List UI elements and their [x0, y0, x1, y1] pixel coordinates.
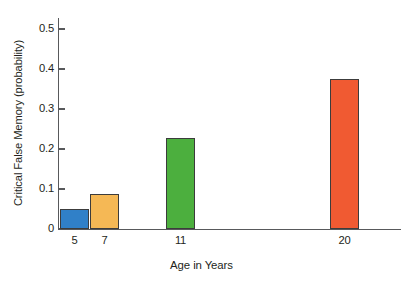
- bar: [90, 194, 119, 229]
- bar: [166, 138, 195, 229]
- y-axis-tick-label: 0.2: [0, 143, 54, 154]
- y-axis-title: Critical False Memory (probability): [9, 8, 27, 238]
- y-axis-tick-label: 0.3: [0, 103, 54, 114]
- bar: [60, 209, 89, 229]
- y-axis-tick-label: 0.1: [0, 183, 54, 194]
- x-axis-tick-label: 11: [161, 234, 201, 246]
- x-axis-tick-label: 20: [325, 234, 365, 246]
- y-axis-tick-label: 0.5: [0, 23, 54, 34]
- bars-layer: [59, 18, 401, 229]
- y-axis-tick-label: 0.4: [0, 63, 54, 74]
- bar: [330, 79, 359, 229]
- y-axis-tick-label: 0: [0, 223, 54, 234]
- bar-chart: Critical False Memory (probability) 00.1…: [0, 0, 403, 283]
- x-axis-tick-label: 7: [85, 234, 125, 246]
- x-axis-line: [58, 229, 401, 230]
- x-axis-title: Age in Years: [0, 259, 403, 271]
